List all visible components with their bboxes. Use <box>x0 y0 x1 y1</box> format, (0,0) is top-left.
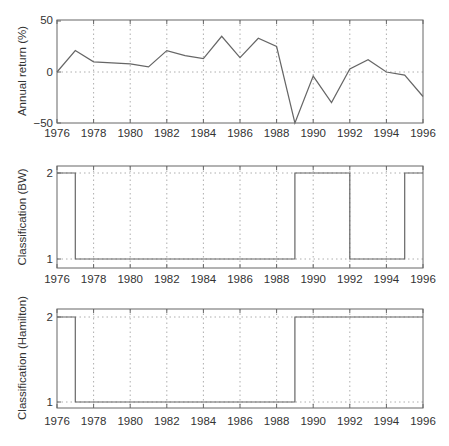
x-tick-label: 1978 <box>81 415 107 427</box>
panel2-grid <box>57 166 423 268</box>
hamilton-classification-panel: 1976197819801982198419861988199019921994… <box>16 296 436 427</box>
x-tick-label: 1996 <box>410 127 436 139</box>
x-tick-label: 1996 <box>410 273 436 285</box>
x-tick-label: 1982 <box>154 127 180 139</box>
panel3-y-axis-label: Classification (Hamilton) <box>16 296 28 420</box>
annual-return-panel: 1976197819801982198419861988199019921994… <box>16 14 436 139</box>
x-tick-label: 1976 <box>44 415 70 427</box>
x-tick-label: 1980 <box>117 273 143 285</box>
panel1-grid <box>57 20 423 123</box>
x-tick-label: 1986 <box>227 127 253 139</box>
panel3-grid <box>57 309 423 408</box>
x-tick-label: 1994 <box>374 415 400 427</box>
x-tick-label: 1994 <box>374 273 400 285</box>
x-tick-label: 1984 <box>191 273 217 285</box>
x-tick-label: 1988 <box>264 127 290 139</box>
panel1-ytick-50: 50 <box>40 14 53 26</box>
x-tick-label: 1976 <box>44 273 70 285</box>
x-tick-label: 1982 <box>154 415 180 427</box>
x-tick-label: 1988 <box>264 273 290 285</box>
x-tick-label: 1990 <box>300 415 326 427</box>
x-tick-label: 1992 <box>337 127 363 139</box>
panel2-ytick-2: 2 <box>47 167 53 179</box>
x-tick-label: 1984 <box>191 415 217 427</box>
panel1-ytick-0: 0 <box>47 66 53 78</box>
panel3-ytick-1: 1 <box>47 396 53 408</box>
x-tick-label: 1992 <box>337 415 363 427</box>
x-tick-label: 1996 <box>410 415 436 427</box>
x-tick-label: 1982 <box>154 273 180 285</box>
x-tick-label: 1984 <box>191 127 217 139</box>
x-tick-label: 1994 <box>374 127 400 139</box>
x-tick-label: 1980 <box>117 127 143 139</box>
chart-figure: 1976197819801982198419861988199019921994… <box>0 0 449 446</box>
panel3-ytick-2: 2 <box>47 311 53 323</box>
panel1-ytick-neg50: −50 <box>33 117 53 129</box>
panel1-frame <box>57 20 423 123</box>
bw-classification-panel: 1976197819801982198419861988199019921994… <box>16 166 436 285</box>
x-tick-label: 1992 <box>337 273 363 285</box>
x-tick-label: 1986 <box>227 273 253 285</box>
x-tick-label: 1978 <box>81 273 107 285</box>
x-tick-label: 1990 <box>300 273 326 285</box>
x-tick-label: 1980 <box>117 415 143 427</box>
x-tick-label: 1978 <box>81 127 107 139</box>
panel1-y-axis-label: Annual return (%) <box>16 26 28 116</box>
panel2-y-axis-label: Classification (BW) <box>16 168 28 265</box>
x-tick-label: 1988 <box>264 415 290 427</box>
x-tick-label: 1986 <box>227 415 253 427</box>
panel2-ytick-1: 1 <box>47 253 53 265</box>
x-tick-label: 1990 <box>300 127 326 139</box>
